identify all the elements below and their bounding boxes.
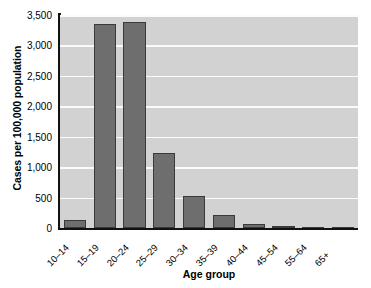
plot-area — [60, 15, 358, 228]
bar — [64, 220, 86, 228]
bar — [94, 24, 116, 228]
bar — [213, 215, 235, 228]
x-axis-tick-label: 20–24 — [104, 242, 130, 268]
x-axis-tick-label: 30–34 — [164, 242, 190, 268]
x-axis-title: Age group — [60, 268, 358, 280]
bar — [183, 196, 205, 228]
y-axis-tick-label: 2,000 — [0, 101, 52, 112]
y-axis-tick-label: 1,500 — [0, 131, 52, 142]
x-axis-tick-label: 35–39 — [193, 242, 219, 268]
x-axis-tick-label: 55–64 — [283, 242, 309, 268]
x-axis-tick-label: 15–19 — [74, 242, 100, 268]
bar-chart: Cases per 100,000 population 05001,0001,… — [0, 0, 371, 288]
x-axis-tick-label: 10–14 — [44, 242, 70, 268]
y-axis-tick-label: 2,500 — [0, 70, 52, 81]
x-axis-tick-labels: 10–1415–1920–2425–2930–3435–3940–4445–54… — [0, 228, 371, 268]
x-axis-tick-label: 25–29 — [134, 242, 160, 268]
bar — [123, 22, 145, 228]
bars-group — [60, 15, 358, 228]
y-axis-tick-label: 1,000 — [0, 162, 52, 173]
bar — [153, 153, 175, 228]
y-axis-tick-label: 3,500 — [0, 10, 52, 21]
x-axis-tick-label: 65+ — [313, 249, 332, 268]
x-axis-tick-label: 40–44 — [223, 242, 249, 268]
x-axis-tick-label: 45–54 — [253, 242, 279, 268]
y-axis-tick-label: 500 — [0, 192, 52, 203]
y-axis-tick-label: 3,000 — [0, 40, 52, 51]
